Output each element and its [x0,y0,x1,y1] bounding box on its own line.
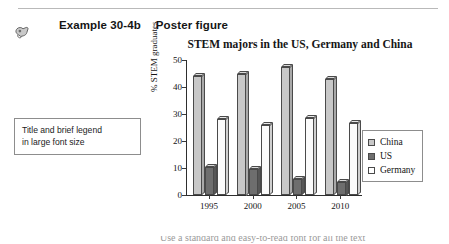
y-tick-label: 0 [164,190,182,200]
y-tick-label: 10 [164,163,182,173]
bar-face [349,123,358,195]
callout-line-2: in large font size [22,137,133,149]
x-tick-label: 1995 [200,201,218,211]
bar-side-face [290,64,293,195]
callout-line-1: Title and brief legend [22,125,133,137]
y-axis-ticks: 01020304050 [164,58,182,213]
legend-label-germany: Germany [380,165,415,175]
bar-group [193,60,226,195]
poster-figure-page: Example 30-4bPoster figure STEM majors i… [0,0,449,244]
bar-face [281,67,290,195]
bar-germany-1995 [217,119,226,195]
x-tick-mark [253,195,254,199]
x-axis-line [186,195,362,196]
x-tick-mark [340,195,341,199]
bar-us-2000 [249,169,258,195]
y-tick-mark [182,60,186,61]
bar-side-face [226,116,229,195]
bar-side-face [270,122,273,195]
bar-side-face [314,115,317,195]
bar-us-2010 [337,182,346,196]
example-subtitle: Poster figure [156,19,228,31]
bar-face [325,79,334,195]
legend-label-us: US [380,151,392,161]
y-tick-mark [182,114,186,115]
callout-box: Title and brief legend in large font siz… [14,118,141,155]
x-tick-label: 2000 [244,201,262,211]
y-tick-mark [182,168,186,169]
legend-swatch-china [368,139,375,146]
legend-swatch-germany [368,167,375,174]
y-tick-mark [182,87,186,88]
bar-face [337,182,346,196]
bar-china-2005 [281,67,290,195]
bar-face [293,179,302,195]
chart-plot-area: % STEM graduates 01020304050 19952000200… [150,58,365,213]
chart-legend: China US Germany [362,130,423,182]
bar-china-2010 [325,79,334,195]
x-tick-label: 2010 [331,201,349,211]
legend-item-china: China [368,135,415,149]
y-tick-label: 30 [164,109,182,119]
bar-series-container [187,60,362,195]
bar-us-2005 [293,179,302,195]
x-tick-label: 2005 [287,201,305,211]
y-tick-mark [182,195,186,196]
bar-group [237,60,270,195]
header-divider [18,8,438,9]
x-tick-mark [296,195,297,199]
bar-group [325,60,358,195]
y-tick-label: 40 [164,82,182,92]
bottom-caption-text: Use a standard and easy-to-read font for… [160,236,440,243]
bar-side-face [334,76,337,195]
bar-germany-2000 [261,125,270,195]
example-number: Example 30-4b [59,19,141,31]
bar-face [237,74,246,196]
x-tick-mark [209,195,210,199]
legend-item-germany: Germany [368,163,415,177]
bar-us-1995 [205,167,214,195]
y-tick-mark [182,141,186,142]
bar-face [305,118,314,195]
pointing-hand-icon [12,21,34,43]
bar-group [281,60,314,195]
bar-top-face [337,179,349,182]
y-axis-title: % STEM graduates [149,22,159,92]
bar-side-face [358,120,361,195]
legend-label-china: China [380,137,403,147]
bar-germany-2010 [349,123,358,195]
bar-china-2000 [237,74,246,196]
example-heading: Example 30-4bPoster figure [59,19,228,31]
legend-item-us: US [368,149,415,163]
bar-germany-2005 [305,118,314,195]
bottom-caption-clipped: Use a standard and easy-to-read font for… [160,236,440,244]
chart-title: STEM majors in the US, Germany and China [180,38,420,50]
legend-swatch-us [368,153,375,160]
bar-china-1995 [193,76,202,195]
y-tick-label: 50 [164,55,182,65]
y-tick-label: 20 [164,136,182,146]
bar-face [261,125,270,195]
bar-face [249,169,258,195]
